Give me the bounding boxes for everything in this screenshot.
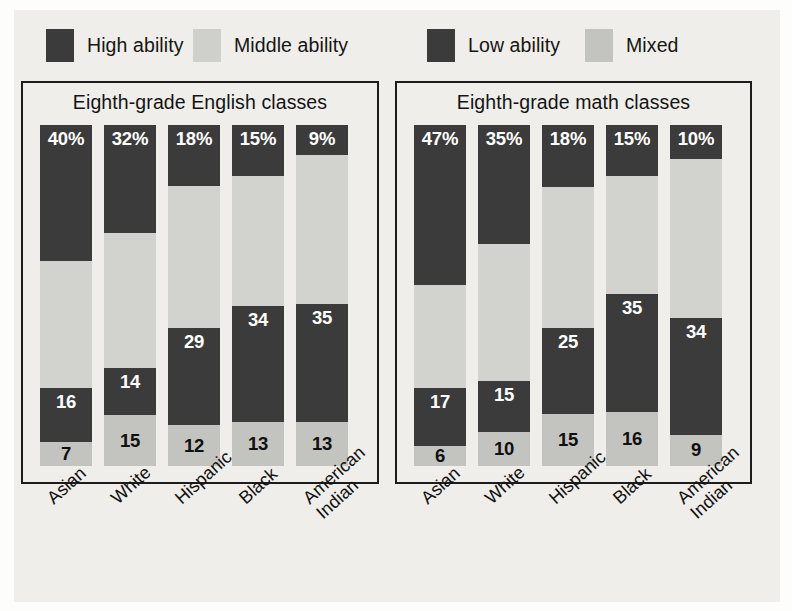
bar-segment-mixed: 16 bbox=[606, 412, 658, 466]
stacked-bar: 35%401510 bbox=[478, 125, 530, 466]
bar-segment-low: 15 bbox=[478, 381, 530, 432]
legend-label-low-ability: Low ability bbox=[468, 34, 560, 57]
panel-math-classes: Eighth-grade math classes 47%3017635%401… bbox=[395, 81, 752, 484]
segment-value-label: 13 bbox=[296, 435, 348, 454]
chart-page: High ability Middle ability Low ability … bbox=[0, 0, 792, 611]
legend-item-low-ability: Low ability bbox=[427, 28, 560, 62]
plot-area-math: 47%3017635%40151018%41251515%35351610%46… bbox=[397, 130, 750, 475]
segment-value-label: 34 bbox=[670, 323, 722, 342]
bar-segment-middle bbox=[104, 233, 156, 368]
legend-swatch-middle-icon bbox=[193, 29, 221, 62]
bar-segment-mixed: 6 bbox=[414, 446, 466, 466]
panel-title-english: Eighth-grade English classes bbox=[23, 91, 377, 114]
xaxis-labels-english: AsianWhiteHispanicBlackAmericanIndian bbox=[21, 487, 379, 597]
bar-segment-low: 14 bbox=[104, 368, 156, 415]
bar-segment-high: 9%44 bbox=[296, 125, 348, 155]
bar-segment-middle bbox=[168, 186, 220, 328]
legend-label-mixed: Mixed bbox=[626, 34, 679, 57]
segment-value-label: 18% bbox=[168, 130, 220, 149]
bar-segment-high: 18%41 bbox=[542, 125, 594, 187]
bar-segment-middle bbox=[232, 176, 284, 306]
bar-segment-high: 18%42 bbox=[168, 125, 220, 186]
segment-value-label: 10 bbox=[478, 440, 530, 459]
plot-area-english: 40%3716732%40141518%42291215%3834139%443… bbox=[23, 130, 377, 475]
bar-segment-mixed: 13 bbox=[232, 422, 284, 466]
segment-value-label: 40% bbox=[40, 130, 92, 149]
legend-item-high-ability: High ability bbox=[46, 28, 184, 62]
chart-legend: High ability Middle ability Low ability … bbox=[0, 28, 766, 76]
segment-value-label: 15 bbox=[542, 431, 594, 450]
bar-segment-low: 16 bbox=[40, 388, 92, 443]
bar-segment-middle bbox=[542, 187, 594, 328]
stacked-bar: 10%46349 bbox=[670, 125, 722, 466]
bar-segment-high: 15%35 bbox=[606, 125, 658, 176]
stacked-bar: 9%443513 bbox=[296, 125, 348, 466]
legend-label-middle-ability: Middle ability bbox=[234, 34, 348, 57]
bar-segment-mixed: 10 bbox=[478, 432, 530, 466]
bar-segment-high: 15%38 bbox=[232, 125, 284, 176]
segment-value-label: 15 bbox=[104, 431, 156, 450]
stacked-bar: 47%30176 bbox=[414, 125, 466, 466]
bar-segment-mixed: 7 bbox=[40, 442, 92, 466]
bar-segment-middle bbox=[606, 176, 658, 294]
segment-value-label: 17 bbox=[414, 393, 466, 412]
panel-title-math: Eighth-grade math classes bbox=[397, 91, 750, 114]
legend-item-middle-ability: Middle ability bbox=[193, 28, 348, 62]
bar-segment-middle bbox=[670, 159, 722, 317]
bar-segment-low: 25 bbox=[542, 328, 594, 414]
bar-segment-low: 34 bbox=[232, 306, 284, 422]
segment-value-label: 9% bbox=[296, 130, 348, 149]
legend-item-mixed: Mixed bbox=[585, 28, 679, 62]
segment-value-label: 47% bbox=[414, 130, 466, 149]
segment-value-label: 29 bbox=[168, 333, 220, 352]
segment-value-label: 18% bbox=[542, 130, 594, 149]
segment-value-label: 15% bbox=[232, 130, 284, 149]
segment-value-label: 16 bbox=[606, 430, 658, 449]
segment-value-label: 15% bbox=[606, 130, 658, 149]
legend-swatch-mixed-icon bbox=[585, 29, 613, 62]
bar-segment-middle bbox=[478, 244, 530, 380]
stacked-bar: 15%383413 bbox=[232, 125, 284, 466]
segment-value-label: 12 bbox=[168, 436, 220, 455]
bar-segment-middle bbox=[414, 285, 466, 387]
segment-value-label: 13 bbox=[232, 435, 284, 454]
legend-swatch-high-icon bbox=[46, 29, 74, 62]
segment-value-label: 10% bbox=[670, 130, 722, 149]
stacked-bar: 18%412515 bbox=[542, 125, 594, 466]
segment-value-label: 35% bbox=[478, 130, 530, 149]
bar-segment-low: 29 bbox=[168, 328, 220, 426]
segment-value-label: 25 bbox=[542, 333, 594, 352]
segment-value-label: 14 bbox=[104, 373, 156, 392]
bar-segment-low: 34 bbox=[670, 318, 722, 435]
stacked-bar: 32%401415 bbox=[104, 125, 156, 466]
bar-segment-mixed: 15 bbox=[104, 415, 156, 466]
bar-segment-high: 35%40 bbox=[478, 125, 530, 244]
bar-segment-high: 40%37 bbox=[40, 125, 92, 261]
panel-english-classes: Eighth-grade English classes 40%3716732%… bbox=[21, 81, 379, 484]
segment-value-label: 35 bbox=[606, 299, 658, 318]
bar-segment-middle bbox=[296, 155, 348, 304]
legend-label-high-ability: High ability bbox=[87, 34, 184, 57]
bar-segment-high: 32%40 bbox=[104, 125, 156, 233]
bar-segment-low: 35 bbox=[606, 294, 658, 412]
bar-segment-high: 10%46 bbox=[670, 125, 722, 159]
bar-segment-middle bbox=[40, 261, 92, 387]
segment-value-label: 35 bbox=[296, 309, 348, 328]
segment-value-label: 32% bbox=[104, 130, 156, 149]
stacked-bar: 40%37167 bbox=[40, 125, 92, 466]
xaxis-labels-math: AsianWhiteHispanicBlackAmericanIndian bbox=[395, 487, 753, 597]
stacked-bar: 15%353516 bbox=[606, 125, 658, 466]
stacked-bar: 18%422912 bbox=[168, 125, 220, 466]
segment-value-label: 16 bbox=[40, 393, 92, 412]
segment-value-label: 15 bbox=[478, 386, 530, 405]
legend-swatch-low-icon bbox=[427, 29, 455, 62]
bar-segment-low: 35 bbox=[296, 304, 348, 422]
segment-value-label: 6 bbox=[414, 447, 466, 466]
segment-value-label: 34 bbox=[232, 311, 284, 330]
bar-segment-low: 17 bbox=[414, 388, 466, 446]
segment-value-label: 7 bbox=[40, 445, 92, 464]
bar-segment-high: 47%30 bbox=[414, 125, 466, 285]
